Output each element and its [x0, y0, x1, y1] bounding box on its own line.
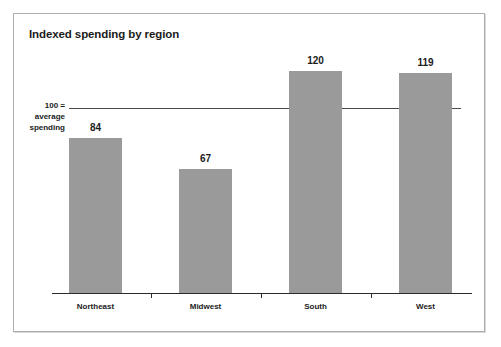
chart-card: Indexed spending by region 100 = average…: [13, 13, 485, 332]
x-axis-line: [52, 293, 472, 294]
category-label-south: South: [269, 302, 362, 311]
bar-northeast: [69, 138, 122, 293]
plot-area: 100 = average spending 8467120119 Northe…: [14, 14, 486, 333]
axis-tick: [371, 294, 372, 298]
bar-south: [289, 71, 342, 293]
bar-value-west: 119: [385, 57, 466, 68]
reference-line-label-line-2: average: [0, 111, 65, 122]
bar-west: [399, 73, 452, 293]
axis-tick: [261, 294, 262, 298]
bar-midwest: [179, 169, 232, 293]
reference-line-label-line-1: 100 =: [0, 100, 65, 111]
category-label-west: West: [379, 302, 472, 311]
category-label-midwest: Midwest: [159, 302, 252, 311]
bar-value-midwest: 67: [165, 153, 246, 164]
axis-tick: [151, 294, 152, 298]
category-label-northeast: Northeast: [49, 302, 142, 311]
bar-value-northeast: 84: [55, 122, 136, 133]
bar-value-south: 120: [275, 55, 356, 66]
